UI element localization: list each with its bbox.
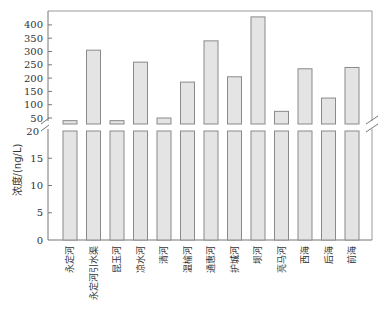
x-tick-label: 通惠河 <box>205 246 216 273</box>
y-tick-label: 0 <box>37 235 43 246</box>
bar-upper <box>345 67 359 124</box>
y-tick-label: 100 <box>24 99 43 110</box>
x-tick-label: 后海 <box>323 246 334 264</box>
x-axis-labels: 永定河永定河引水渠昆玉河凉水河清河温榆河通惠河护城河坝河亮马河西海后海前海 <box>64 246 357 300</box>
bar-lower <box>63 131 77 240</box>
x-tick-label: 温榆河 <box>182 246 193 273</box>
y-tick-label: 250 <box>24 59 43 70</box>
bar-upper <box>275 111 289 124</box>
bar-upper <box>322 98 336 124</box>
bars <box>63 17 359 240</box>
y-tick-label: 300 <box>24 46 43 57</box>
x-tick-label: 前海 <box>346 246 357 264</box>
x-tick-label: 西海 <box>299 246 310 264</box>
x-tick-label: 护城河 <box>229 246 240 273</box>
bar-lower <box>204 131 218 240</box>
y-tick-label: 400 <box>24 19 43 30</box>
bar-lower <box>87 131 101 240</box>
bar-lower <box>322 131 336 240</box>
bar-upper <box>134 62 148 124</box>
bar-upper <box>87 50 101 124</box>
bar-upper <box>204 41 218 124</box>
bar-lower <box>157 131 171 240</box>
bar-lower <box>110 131 124 240</box>
bar-lower <box>228 131 242 240</box>
x-tick-label: 永定河 <box>64 246 75 273</box>
bar-upper <box>63 121 77 124</box>
bar-upper <box>228 77 242 124</box>
bar-upper <box>251 17 265 124</box>
y-axis-label: 浓度/(ng/L) <box>11 144 23 197</box>
y-tick-label: 15 <box>30 153 43 164</box>
bar-upper <box>157 118 171 124</box>
x-tick-label: 亮马河 <box>276 246 287 273</box>
bar-lower <box>345 131 359 240</box>
y-tick-label: 350 <box>24 33 43 44</box>
bar-lower <box>298 131 312 240</box>
y-tick-label: 150 <box>24 86 43 97</box>
y-tick-label: 200 <box>24 73 43 84</box>
bar-lower <box>251 131 265 240</box>
bar-lower <box>134 131 148 240</box>
x-tick-label: 昆玉河 <box>111 246 122 273</box>
y-tick-label: 10 <box>30 180 43 191</box>
x-tick-label: 永定河引水渠 <box>88 246 99 300</box>
y-tick-label: 20 <box>26 126 39 137</box>
bar-lower <box>181 131 195 240</box>
bar-chart: 5010015020025030035040005101520 永定河永定河引水… <box>0 0 385 310</box>
bar-upper <box>181 82 195 124</box>
x-tick-label: 坝河 <box>252 246 263 264</box>
bar-lower <box>275 131 289 240</box>
bar-upper <box>110 121 124 124</box>
bar-upper <box>298 69 312 124</box>
x-tick-label: 清河 <box>158 246 169 264</box>
x-tick-label: 凉水河 <box>135 246 146 273</box>
y-tick-label: 50 <box>30 113 43 124</box>
y-tick-label: 5 <box>37 207 43 218</box>
